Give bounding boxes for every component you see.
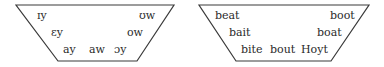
word-boot: boot [330,10,355,21]
symbol-oy: ɔy [114,44,126,55]
word-bout: bout [270,44,295,55]
word-bait: bait [229,27,251,38]
word-beat: beat [215,10,240,21]
symbol-ay: ay [63,44,76,55]
symbol-ow: ow [127,27,143,38]
symbol-aw: aw [89,44,105,55]
word-boat: boat [317,27,342,38]
symbol-iy: ɪy [37,10,47,21]
symbol-uw: ʊw [139,10,155,21]
word-hoyt: Hoyt [301,44,328,55]
word-bite: bite [241,44,263,55]
symbol-ey: ɛy [51,27,63,38]
